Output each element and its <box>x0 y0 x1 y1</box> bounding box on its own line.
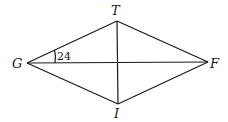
side-GT <box>27 21 117 63</box>
vertex-label-G: G <box>12 56 22 71</box>
vertex-label-T: T <box>111 3 121 18</box>
side-TF <box>117 21 208 62</box>
side-FI <box>118 62 208 104</box>
diagonal-TI <box>117 21 118 104</box>
rhombus-diagram: T G F I 24 <box>0 0 228 122</box>
angle-arc-G <box>55 50 56 63</box>
vertex-label-I: I <box>113 106 120 121</box>
angle-label-G: 24 <box>57 50 71 63</box>
vertex-label-F: F <box>209 56 220 71</box>
side-IG <box>27 63 118 104</box>
